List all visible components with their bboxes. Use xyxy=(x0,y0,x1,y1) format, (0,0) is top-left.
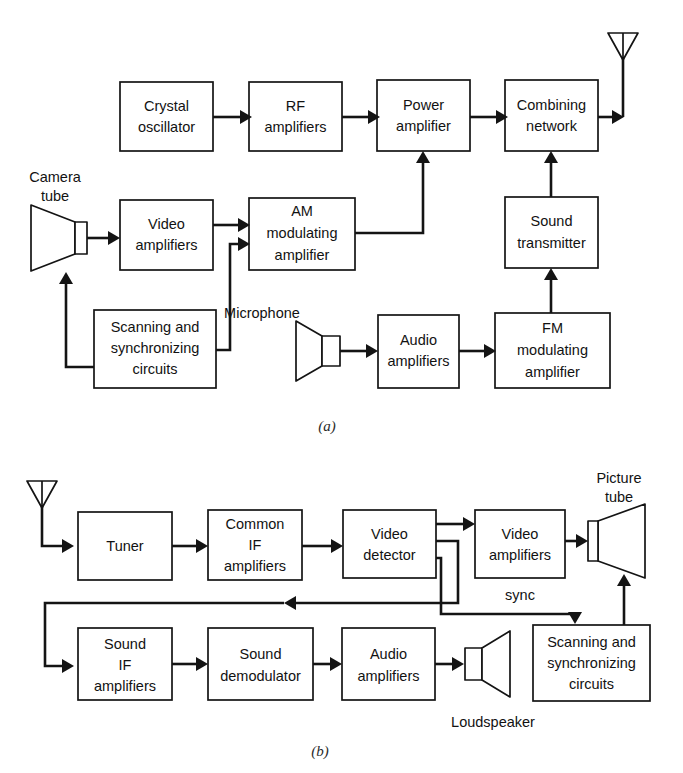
block-label: synchronizing xyxy=(111,340,200,356)
wire-commonif-to-videodet xyxy=(302,539,343,553)
block-label: amplifier xyxy=(275,247,330,263)
wire-video-to-am xyxy=(213,218,250,232)
block-label: Tuner xyxy=(106,538,144,554)
wire-videoamp-to-picturetube xyxy=(565,534,588,548)
block-video-amplifiers-a: Video amplifiers xyxy=(120,200,213,270)
wire-combining-to-antenna xyxy=(598,110,624,124)
block-video-detector: Video detector xyxy=(343,510,436,578)
block-audio-amplifiers-b: Audio amplifiers xyxy=(342,628,435,700)
block-label: circuits xyxy=(569,676,614,692)
block-label: Scanning and xyxy=(111,319,200,335)
block-label: Sound xyxy=(240,646,282,662)
block-label: amplifier xyxy=(525,364,580,380)
picture-tube-icon: Picture tube xyxy=(588,470,645,578)
block-label: AM xyxy=(291,203,313,219)
block-crystal-oscillator: Crystal oscillator xyxy=(120,82,213,151)
block-label: transmitter xyxy=(517,235,586,251)
wire-mic-to-audio xyxy=(340,344,378,358)
transmit-antenna-icon xyxy=(608,33,638,117)
panel-a-caption: (a) xyxy=(318,418,336,435)
block-label: amplifiers xyxy=(94,678,156,694)
block-label: modulating xyxy=(267,225,338,241)
block-tuner: Tuner xyxy=(78,512,172,580)
wire-scanning-to-am xyxy=(216,237,250,350)
block-label: Sound xyxy=(531,213,573,229)
block-scanning-sync-a: Scanning and synchronizing circuits xyxy=(94,310,216,388)
block-label: Video xyxy=(148,216,185,232)
block-label: Audio xyxy=(400,332,437,348)
block-label: amplifiers xyxy=(224,558,286,574)
block-am-modulating-amplifier: AM modulating amplifier xyxy=(249,198,355,270)
wire-rf-to-power xyxy=(342,110,380,124)
block-label: circuits xyxy=(132,361,177,377)
camera-tube-label: tube xyxy=(41,188,69,204)
microphone-label: Microphone xyxy=(224,305,300,321)
block-label: Power xyxy=(403,97,444,113)
block-label: detector xyxy=(363,547,416,563)
block-label: amplifiers xyxy=(489,547,551,563)
panel-b-caption: (b) xyxy=(311,743,329,760)
block-label: Sound xyxy=(104,636,146,652)
wire-videodet-to-videoamp xyxy=(436,517,475,531)
picture-tube-label: Picture xyxy=(596,470,641,486)
block-label: synchronizing xyxy=(547,655,636,671)
block-common-if-amplifiers: Common IF amplifiers xyxy=(208,510,302,580)
block-label: modulating xyxy=(517,342,588,358)
block-label: amplifiers xyxy=(135,237,197,253)
receive-antenna-icon xyxy=(27,481,74,553)
block-label: amplifiers xyxy=(387,353,449,369)
block-label: Video xyxy=(371,526,408,542)
block-label: RF xyxy=(286,98,305,114)
block-label: amplifier xyxy=(396,118,451,134)
block-combining-network: Combining network xyxy=(505,80,598,151)
wire-am-to-power xyxy=(355,151,430,233)
block-label: FM xyxy=(542,320,563,336)
block-power-amplifier: Power amplifier xyxy=(377,80,470,151)
block-label: Video xyxy=(502,526,539,542)
block-label: oscillator xyxy=(138,119,195,135)
figure-page: Crystal oscillator RF amplifiers Power a… xyxy=(0,0,683,773)
block-label: network xyxy=(526,118,578,134)
block-rf-amplifiers: RF amplifiers xyxy=(249,82,342,151)
wire-tuner-to-commonif xyxy=(172,539,208,553)
wire-audio-to-fm xyxy=(459,344,496,358)
block-label: Crystal xyxy=(144,98,189,114)
wire-fm-to-soundtx xyxy=(544,268,558,313)
block-audio-amplifiers-a: Audio amplifiers xyxy=(378,315,459,388)
panel-a-transmitter: Crystal oscillator RF amplifiers Power a… xyxy=(29,33,638,435)
block-sound-transmitter: Sound transmitter xyxy=(505,197,598,268)
block-label: Combining xyxy=(517,97,586,113)
block-label: Scanning and xyxy=(547,634,636,650)
block-sound-demodulator: Sound demodulator xyxy=(208,628,313,700)
camera-tube-icon: Camera tube xyxy=(29,169,87,271)
loudspeaker-icon: Loudspeaker xyxy=(451,631,535,730)
camera-tube-label: Camera xyxy=(29,169,82,185)
block-fm-modulating-amplifier: FM modulating amplifier xyxy=(495,313,610,388)
block-label: Audio xyxy=(370,646,407,662)
block-label: Common xyxy=(226,516,285,532)
wire-soundtx-to-combining xyxy=(544,151,558,197)
block-scanning-sync-b: Scanning and synchronizing circuits xyxy=(533,625,650,701)
block-label: amplifiers xyxy=(264,119,326,135)
wire-crystal-to-rf xyxy=(213,110,252,124)
wire-camera-to-video xyxy=(87,231,120,245)
microphone-icon: Microphone xyxy=(224,305,340,381)
sync-label: sync xyxy=(505,587,535,603)
block-label: demodulator xyxy=(220,668,301,684)
block-video-amplifiers-b: Video amplifiers xyxy=(475,510,565,578)
block-label: IF xyxy=(249,537,262,553)
block-label: IF xyxy=(119,657,132,673)
block-sound-if-amplifiers: Sound IF amplifiers xyxy=(78,628,172,700)
wire-soundif-to-demod xyxy=(172,657,208,671)
wire-scanning-to-picturetube xyxy=(617,574,631,625)
wire-demod-to-audio xyxy=(313,657,342,671)
block-diagram-figure: Crystal oscillator RF amplifiers Power a… xyxy=(0,0,683,773)
wire-scanning-to-camera xyxy=(59,272,94,367)
wire-power-to-combining xyxy=(470,110,508,124)
picture-tube-label: tube xyxy=(605,489,633,505)
loudspeaker-label: Loudspeaker xyxy=(451,714,535,730)
block-label: amplifiers xyxy=(357,668,419,684)
panel-b-receiver: Tuner Common IF amplifiers Video detecto… xyxy=(27,470,650,760)
wire-audio-to-speaker xyxy=(435,657,464,671)
